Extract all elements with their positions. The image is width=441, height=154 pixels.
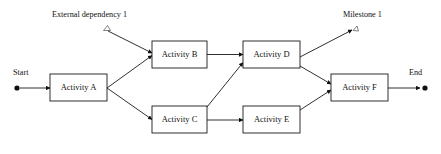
node-label-activity-c: Activity C (162, 114, 198, 124)
node-label-activity-f: Activity F (342, 82, 377, 92)
milestone-triangle-icon (353, 26, 359, 31)
edge-activity-a-to-activity-c (107, 88, 152, 120)
milestone-label: Milestone 1 (343, 10, 382, 19)
node-label-activity-b: Activity B (162, 49, 198, 59)
node-label-activity-d: Activity D (253, 49, 289, 59)
diagram-canvas: Activity A Activity B Activity C Activit… (0, 0, 441, 154)
network-diagram: Activity A Activity B Activity C Activit… (0, 0, 441, 154)
node-label-activity-a: Activity A (61, 82, 98, 92)
external-dependency-triangle-icon (104, 26, 111, 31)
end-node-dot (422, 85, 427, 90)
edge-external-dependency-to-activity-b (108, 31, 152, 53)
edge-activity-c-to-activity-d (207, 63, 243, 108)
start-label: Start (13, 68, 29, 77)
edge-activity-a-to-activity-b (107, 56, 152, 89)
edge-activity-d-to-activity-f (300, 66, 331, 84)
external-dependency-label: External dependency 1 (52, 10, 127, 19)
node-label-activity-e: Activity E (254, 114, 289, 124)
edge-activity-d-to-milestone-1 (300, 30, 352, 57)
edge-activity-e-to-activity-f (300, 90, 331, 110)
end-label: End (409, 68, 422, 77)
start-node-dot (14, 85, 19, 90)
